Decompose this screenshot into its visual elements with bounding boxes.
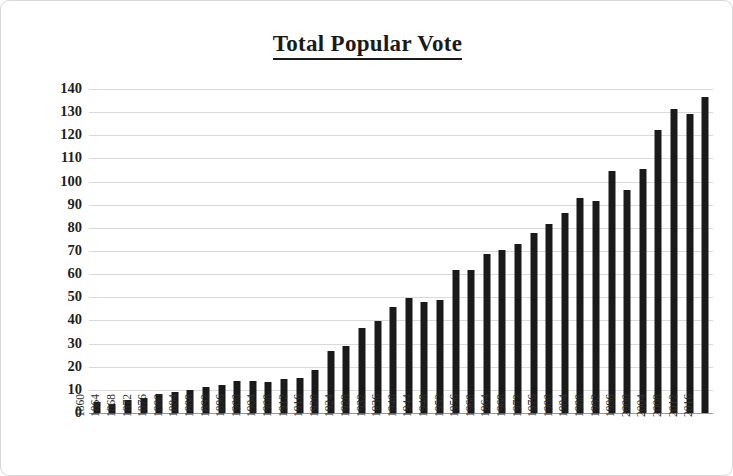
y-axis-tick: 60 bbox=[38, 265, 82, 282]
x-axis-tick: 1964 bbox=[479, 394, 491, 440]
bar-slot bbox=[245, 89, 261, 413]
bar-slot bbox=[448, 89, 464, 413]
x-axis-tick: 1900 bbox=[230, 394, 242, 440]
bar-slot bbox=[292, 89, 308, 413]
bar[interactable] bbox=[639, 169, 646, 413]
bar[interactable] bbox=[670, 109, 677, 413]
x-axis-tick: 1884 bbox=[167, 394, 179, 440]
bar-slot bbox=[619, 89, 635, 413]
y-axis-tick: 80 bbox=[38, 219, 82, 236]
x-axis-tick: 1888 bbox=[183, 394, 195, 440]
bar-slot bbox=[417, 89, 433, 413]
bar-slot bbox=[136, 89, 152, 413]
bar[interactable] bbox=[702, 97, 709, 413]
x-axis-tick: 1916 bbox=[292, 394, 304, 440]
bar-slot bbox=[666, 89, 682, 413]
x-axis-tick: 1952 bbox=[433, 394, 445, 440]
x-axis-tick: 2012 bbox=[667, 394, 679, 440]
bar[interactable] bbox=[686, 114, 693, 413]
x-axis-tick: 1864 bbox=[89, 394, 101, 440]
x-axis-tick: 1904 bbox=[245, 394, 257, 440]
x-axis-tick: 1948 bbox=[417, 394, 429, 440]
bar-slot bbox=[323, 89, 339, 413]
bar-slot bbox=[183, 89, 199, 413]
y-axis-tick: 20 bbox=[38, 358, 82, 375]
bar-slot bbox=[463, 89, 479, 413]
y-axis-tick: 40 bbox=[38, 311, 82, 328]
bar[interactable] bbox=[608, 171, 615, 413]
bar[interactable] bbox=[624, 190, 631, 413]
x-axis-tick: 1976 bbox=[526, 394, 538, 440]
bar[interactable] bbox=[561, 213, 568, 413]
x-axis-tick: 1960 bbox=[464, 394, 476, 440]
x-axis-tick: 1860 bbox=[74, 394, 86, 440]
bar[interactable] bbox=[514, 244, 521, 413]
x-axis-tick: 1872 bbox=[121, 394, 133, 440]
bar-slot bbox=[557, 89, 573, 413]
bar[interactable] bbox=[452, 270, 459, 413]
bar-slot bbox=[261, 89, 277, 413]
x-axis-tick: 1988 bbox=[573, 394, 585, 440]
bar[interactable] bbox=[530, 233, 537, 413]
bar-slot bbox=[120, 89, 136, 413]
chart-figure: Total Popular Vote # of votes, in millio… bbox=[0, 0, 733, 476]
bar[interactable] bbox=[483, 254, 490, 413]
bar-slot bbox=[105, 89, 121, 413]
x-axis-tick: 1908 bbox=[261, 394, 273, 440]
bar[interactable] bbox=[577, 198, 584, 413]
x-axis-tick: 1936 bbox=[370, 394, 382, 440]
y-axis-tick: 140 bbox=[38, 80, 82, 97]
bar-slot bbox=[479, 89, 495, 413]
bar-slot bbox=[214, 89, 230, 413]
bar-slot bbox=[526, 89, 542, 413]
y-axis-tick: 90 bbox=[38, 196, 82, 213]
bar-slot bbox=[682, 89, 698, 413]
x-axis-tick: 1972 bbox=[511, 394, 523, 440]
x-axis-tick: 2016 bbox=[682, 394, 694, 440]
page-title: Total Popular Vote bbox=[1, 31, 733, 57]
bar-slot bbox=[229, 89, 245, 413]
x-axis-tick: 1876 bbox=[136, 394, 148, 440]
x-axis-tick: 1956 bbox=[448, 394, 460, 440]
bar[interactable] bbox=[499, 250, 506, 413]
x-axis-tick-wrap: 2016 bbox=[697, 415, 713, 475]
bar-slot bbox=[401, 89, 417, 413]
y-axis-tick: 30 bbox=[38, 335, 82, 352]
bar-slot bbox=[370, 89, 386, 413]
bar-slot bbox=[89, 89, 105, 413]
bar[interactable] bbox=[546, 224, 553, 413]
x-axis-tick: 1880 bbox=[152, 394, 164, 440]
bar[interactable] bbox=[468, 270, 475, 413]
bar-slot bbox=[339, 89, 355, 413]
x-axis-tick: 1968 bbox=[495, 394, 507, 440]
bar-slot bbox=[167, 89, 183, 413]
x-axis-tick: 2004 bbox=[635, 394, 647, 440]
x-axis-tick: 1912 bbox=[277, 394, 289, 440]
bar-slot bbox=[307, 89, 323, 413]
y-axis-tick: 120 bbox=[38, 126, 82, 143]
bar-slot bbox=[510, 89, 526, 413]
bar-series bbox=[89, 89, 713, 413]
x-axis-tick: 1992 bbox=[589, 394, 601, 440]
bar-slot bbox=[573, 89, 589, 413]
bar-slot bbox=[541, 89, 557, 413]
chart-title-text: Total Popular Vote bbox=[273, 31, 462, 60]
bar-slot bbox=[495, 89, 511, 413]
bar-slot bbox=[635, 89, 651, 413]
x-axis-tick: 1892 bbox=[199, 394, 211, 440]
bar[interactable] bbox=[592, 201, 599, 413]
bar-slot bbox=[604, 89, 620, 413]
x-axis-tick: 1928 bbox=[339, 394, 351, 440]
y-axis-tick: 50 bbox=[38, 288, 82, 305]
x-axis-tick-labels: 1860186418681872187618801884188818921896… bbox=[89, 415, 713, 475]
y-axis-tick: 130 bbox=[38, 103, 82, 120]
bar-slot bbox=[276, 89, 292, 413]
x-axis-tick: 1868 bbox=[105, 394, 117, 440]
bar[interactable] bbox=[655, 130, 662, 413]
bar-slot bbox=[354, 89, 370, 413]
y-axis-tick: 110 bbox=[38, 149, 82, 166]
x-axis-tick: 1996 bbox=[604, 394, 616, 440]
x-axis-tick: 1944 bbox=[401, 394, 413, 440]
x-axis-tick: 1980 bbox=[542, 394, 554, 440]
bar-slot bbox=[697, 89, 713, 413]
